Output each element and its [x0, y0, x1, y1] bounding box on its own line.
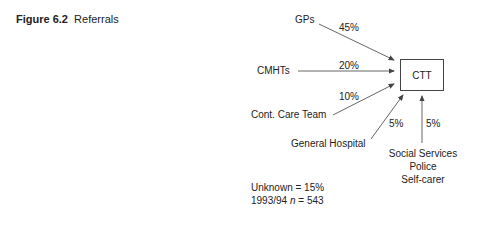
- percent-cont-care-team: 10%: [339, 91, 359, 102]
- percent-cmhts: 20%: [339, 60, 359, 71]
- source-self-carer: Self-carer: [387, 173, 459, 186]
- ctt-box: CTT: [400, 59, 444, 91]
- source-general-hospital: General Hospital: [291, 138, 365, 149]
- ctt-label: CTT: [412, 70, 431, 81]
- source-social-services-group: Social Services Police Self-carer: [387, 147, 459, 186]
- arrow-general-hospital: [371, 95, 403, 139]
- arrows-layer: [0, 0, 487, 227]
- note-unknown: Unknown = 15%: [251, 182, 324, 193]
- source-cmhts: CMHTs: [257, 65, 290, 76]
- note-sample: 1993/94 n = 543: [251, 195, 324, 206]
- source-social-services: Social Services: [387, 147, 459, 160]
- source-police: Police: [387, 160, 459, 173]
- percent-general-hospital: 5%: [389, 118, 403, 129]
- percent-social-services: 5%: [426, 118, 440, 129]
- percent-gps: 45%: [339, 22, 359, 33]
- source-cont-care-team: Cont. Care Team: [251, 109, 326, 120]
- source-gps: GPs: [295, 14, 314, 25]
